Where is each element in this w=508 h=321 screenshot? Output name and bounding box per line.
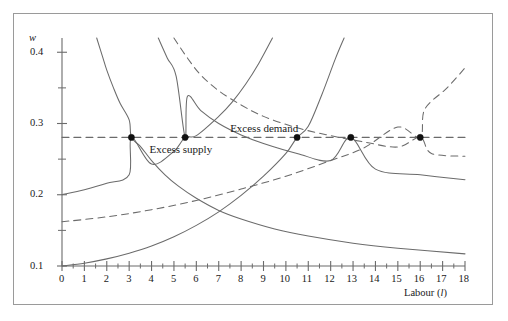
annotation-excess-supply: Excess supply	[150, 144, 213, 155]
x-tick-label: 10	[279, 274, 290, 285]
x-tick-label: 2	[104, 274, 109, 285]
y-tick-label: 0.3	[30, 118, 43, 129]
figure-frame	[13, 13, 493, 305]
x-tick-label: 4	[149, 274, 154, 285]
x-tick-label: 16	[414, 274, 425, 285]
x-tick-label: 0	[59, 274, 64, 285]
x-tick-label: 7	[216, 274, 221, 285]
y-tick-label: 0.2	[30, 189, 43, 200]
x-tick-label: 11	[302, 274, 312, 285]
y-tick-label: 0.1	[30, 261, 43, 272]
annotation-excess-demand: Excess demand	[230, 123, 298, 134]
x-axis-title-close: )	[443, 287, 447, 298]
x-tick-label: 15	[391, 274, 402, 285]
x-tick-label: 13	[347, 274, 358, 285]
x-tick-label: 1	[81, 274, 86, 285]
x-tick-label: 9	[261, 274, 266, 285]
x-tick-label: 18	[459, 274, 470, 285]
x-tick-label: 12	[324, 274, 335, 285]
y-axis-label: w	[29, 33, 36, 44]
x-tick-label: 5	[171, 274, 176, 285]
x-tick-label: 8	[238, 274, 243, 285]
y-tick-label: 0.4	[30, 47, 43, 58]
figure-container: w Excess demand Excess supply Labour (l)…	[0, 0, 508, 321]
x-axis-title-text: Labour (	[404, 287, 440, 298]
x-tick-label: 3	[126, 274, 131, 285]
x-tick-label: 17	[436, 274, 447, 285]
x-tick-label: 14	[369, 274, 380, 285]
x-axis-title: Labour (l)	[404, 288, 447, 299]
x-tick-label: 6	[193, 274, 198, 285]
